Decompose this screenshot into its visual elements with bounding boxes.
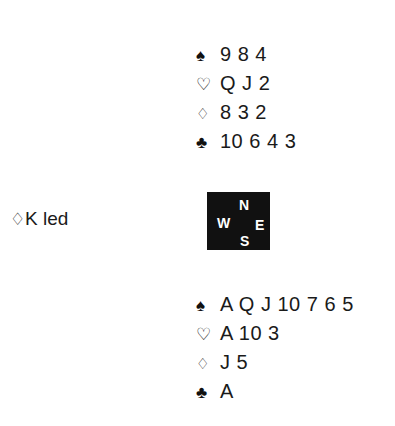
south-clubs-cards: A [220, 377, 234, 406]
north-hearts-cards: Q J 2 [220, 69, 270, 98]
spade-icon: ♠ [196, 291, 220, 320]
north-hearts-row: ♡ Q J 2 [196, 69, 296, 98]
north-spades-cards: 9 8 4 [220, 40, 267, 69]
bridge-hand-diagram: ♠ 9 8 4 ♡ Q J 2 ♢ 8 3 2 ♣ 10 6 4 3 ♢K le… [0, 0, 395, 426]
opening-lead-label: ♢K led [10, 209, 68, 228]
north-diamonds-row: ♢ 8 3 2 [196, 98, 296, 127]
diamond-icon: ♢ [196, 99, 220, 128]
compass-south-label: S [240, 234, 249, 248]
south-clubs-row: ♣ A [196, 377, 354, 406]
south-hand: ♠ A Q J 10 7 6 5 ♡ A 10 3 ♢ J 5 ♣ A [196, 290, 354, 406]
north-clubs-cards: 10 6 4 3 [220, 127, 296, 156]
compass-box: N W E S [207, 192, 270, 250]
diamond-icon: ♢ [10, 210, 25, 229]
compass-north-label: N [239, 198, 249, 212]
club-icon: ♣ [196, 378, 220, 407]
south-hearts-cards: A 10 3 [220, 319, 280, 348]
north-clubs-row: ♣ 10 6 4 3 [196, 127, 296, 156]
north-spades-row: ♠ 9 8 4 [196, 40, 296, 69]
south-spades-row: ♠ A Q J 10 7 6 5 [196, 290, 354, 319]
spade-icon: ♠ [196, 41, 220, 70]
heart-icon: ♡ [196, 70, 220, 99]
south-diamonds-cards: J 5 [220, 348, 248, 377]
diamond-icon: ♢ [196, 349, 220, 378]
opening-lead-text: K led [25, 208, 68, 229]
south-diamonds-row: ♢ J 5 [196, 348, 354, 377]
compass-west-label: W [217, 216, 230, 230]
heart-icon: ♡ [196, 320, 220, 349]
south-spades-cards: A Q J 10 7 6 5 [220, 290, 354, 319]
club-icon: ♣ [196, 128, 220, 157]
north-hand: ♠ 9 8 4 ♡ Q J 2 ♢ 8 3 2 ♣ 10 6 4 3 [196, 40, 296, 156]
north-diamonds-cards: 8 3 2 [220, 98, 267, 127]
south-hearts-row: ♡ A 10 3 [196, 319, 354, 348]
compass-east-label: E [255, 218, 264, 232]
